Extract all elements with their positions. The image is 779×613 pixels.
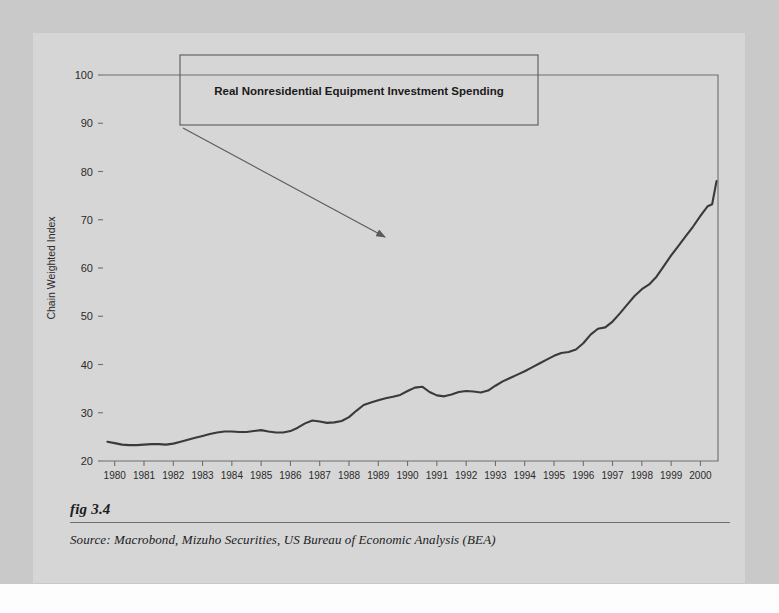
x-tick-label: 1981 xyxy=(133,470,156,481)
x-tick-label: 1995 xyxy=(543,470,566,481)
annotation-arrow-icon xyxy=(183,128,385,237)
y-tick-label: 70 xyxy=(81,214,93,226)
x-tick-label: 1989 xyxy=(367,470,390,481)
figure-page: 2030405060708090100 Chain Weighted Index… xyxy=(0,0,779,613)
figure-caption: fig 3.4 xyxy=(70,501,730,522)
chart-plot-area: 2030405060708090100 Chain Weighted Index… xyxy=(33,33,745,483)
x-tick-label: 1980 xyxy=(104,470,127,481)
x-tick-label: 1988 xyxy=(338,470,361,481)
x-tick-label: 1990 xyxy=(396,470,419,481)
x-tick-label: 1999 xyxy=(660,470,683,481)
y-tick-label: 40 xyxy=(81,359,93,371)
annotation-callout: Real Nonresidential Equipment Investment… xyxy=(180,55,538,125)
y-axis-ticks: 2030405060708090100 xyxy=(75,69,103,467)
figure-panel: 2030405060708090100 Chain Weighted Index… xyxy=(33,33,745,583)
y-tick-label: 30 xyxy=(81,407,93,419)
y-axis-title: Chain Weighted Index xyxy=(45,216,57,320)
x-axis-ticks: 1980198119821983198419851986198719881989… xyxy=(104,461,712,481)
y-tick-label: 80 xyxy=(81,166,93,178)
x-tick-label: 1991 xyxy=(426,470,449,481)
x-tick-label: 1997 xyxy=(601,470,624,481)
x-tick-label: 1984 xyxy=(221,470,244,481)
x-tick-label: 1992 xyxy=(455,470,478,481)
x-tick-label: 1985 xyxy=(250,470,273,481)
x-tick-label: 1998 xyxy=(631,470,654,481)
annotation-label: Real Nonresidential Equipment Investment… xyxy=(214,85,503,97)
x-tick-label: 2000 xyxy=(689,470,712,481)
x-tick-label: 1994 xyxy=(514,470,537,481)
y-tick-label: 60 xyxy=(81,262,93,274)
source-attribution: Source: Macrobond, Mizuho Securities, US… xyxy=(70,523,730,548)
y-tick-label: 50 xyxy=(81,310,93,322)
y-tick-label: 100 xyxy=(75,69,93,81)
y-tick-label: 90 xyxy=(81,117,93,129)
x-tick-label: 1993 xyxy=(484,470,507,481)
plot-frame xyxy=(103,75,718,461)
x-tick-label: 1986 xyxy=(279,470,302,481)
line-chart-svg: 2030405060708090100 Chain Weighted Index… xyxy=(33,33,745,483)
x-tick-label: 1987 xyxy=(309,470,332,481)
x-tick-label: 1982 xyxy=(162,470,185,481)
x-tick-label: 1996 xyxy=(572,470,595,481)
y-tick-label: 20 xyxy=(81,455,93,467)
x-tick-label: 1983 xyxy=(191,470,214,481)
caption-block: fig 3.4 Source: Macrobond, Mizuho Securi… xyxy=(70,501,730,548)
series-line-real-equipment-investment xyxy=(107,181,716,445)
